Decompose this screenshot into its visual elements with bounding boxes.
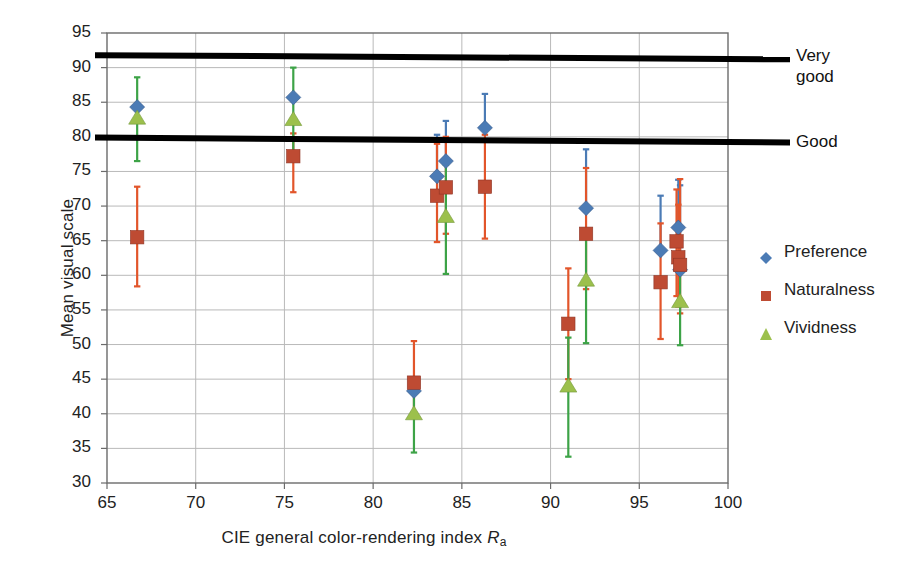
marker-square bbox=[407, 376, 420, 389]
x-axis-title-subscript: a bbox=[500, 535, 507, 549]
reference-label-good: Good bbox=[796, 131, 838, 152]
legend-marker-triangle-icon bbox=[756, 324, 776, 344]
x-tick-label: 95 bbox=[612, 493, 666, 513]
legend-label: Naturalness bbox=[784, 280, 875, 300]
legend-label: Preference bbox=[784, 242, 867, 262]
marker-square bbox=[478, 180, 491, 193]
y-tick-label: 75 bbox=[45, 160, 91, 180]
x-tick-label: 85 bbox=[435, 493, 489, 513]
y-tick-label: 50 bbox=[45, 334, 91, 354]
y-tick-label: 60 bbox=[45, 264, 91, 284]
x-axis-title-symbol: R bbox=[487, 528, 499, 547]
marker-square bbox=[579, 227, 592, 240]
marker-square bbox=[287, 150, 300, 163]
marker-square bbox=[670, 235, 683, 248]
x-tick-label: 90 bbox=[524, 493, 578, 513]
y-tick-label: 70 bbox=[45, 195, 91, 215]
x-axis-title-main: CIE general color-rendering index bbox=[221, 528, 487, 547]
legend-label: Vividness bbox=[784, 318, 856, 338]
chart-figure: CIE general color-rendering index Ra Mea… bbox=[0, 0, 910, 577]
legend-marker-diamond-icon bbox=[756, 248, 776, 268]
y-tick-label: 35 bbox=[45, 437, 91, 457]
y-tick-label: 40 bbox=[45, 403, 91, 423]
y-tick-label: 65 bbox=[45, 230, 91, 250]
y-tick-label: 45 bbox=[45, 368, 91, 388]
marker-square bbox=[439, 181, 452, 194]
marker-square bbox=[562, 317, 575, 330]
y-tick-label: 90 bbox=[45, 57, 91, 77]
x-tick-label: 75 bbox=[257, 493, 311, 513]
marker-square bbox=[654, 276, 667, 289]
legend-marker-square-icon bbox=[756, 286, 776, 306]
x-tick-label: 70 bbox=[169, 493, 223, 513]
y-tick-label: 95 bbox=[45, 22, 91, 42]
x-tick-label: 100 bbox=[701, 493, 755, 513]
x-tick-label: 65 bbox=[80, 493, 134, 513]
y-tick-label: 85 bbox=[45, 91, 91, 111]
y-tick-label: 80 bbox=[45, 126, 91, 146]
marker-square bbox=[673, 258, 686, 271]
x-tick-label: 80 bbox=[346, 493, 400, 513]
y-tick-label: 55 bbox=[45, 299, 91, 319]
reference-label-very-good: Very good bbox=[796, 45, 834, 87]
reference-line-very-good bbox=[95, 55, 790, 59]
y-tick-label: 30 bbox=[45, 472, 91, 492]
x-axis-title: CIE general color-rendering index Ra bbox=[0, 528, 728, 549]
marker-square bbox=[130, 231, 143, 244]
